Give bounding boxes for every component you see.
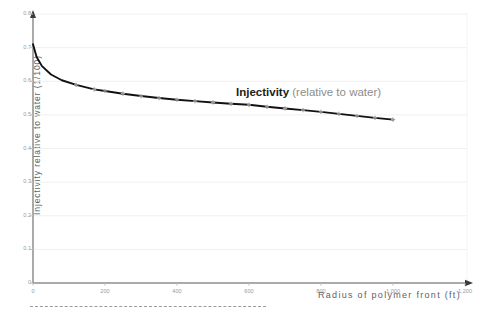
- annotation-light-text: (relative to water): [292, 86, 381, 98]
- y-tick-label: 0.8: [7, 10, 31, 16]
- series-marker: [229, 102, 233, 106]
- x-axis-arrowhead: [465, 280, 473, 286]
- x-axis-title: Radius of polymer front (ft): [318, 290, 461, 300]
- series-marker: [319, 110, 323, 114]
- y-tick-label: 0.3: [7, 178, 31, 184]
- y-tick-label: 0.6: [7, 77, 31, 83]
- series-marker: [391, 117, 395, 121]
- y-tick-label: 0.1: [7, 245, 31, 251]
- series-marker: [92, 87, 96, 91]
- x-tick-label: 600: [244, 288, 253, 294]
- series-marker: [103, 89, 107, 93]
- footer-dashed-rule: [30, 306, 266, 307]
- series-line-injectivity: [33, 44, 393, 119]
- x-tick-label: 400: [172, 288, 181, 294]
- y-axis-ticks: 00.10.20.30.40.50.60.70.8: [0, 0, 31, 319]
- series-marker: [121, 92, 125, 96]
- y-tick-label: 0: [7, 279, 31, 285]
- y-tick-label: 0.5: [7, 111, 31, 117]
- series-marker: [301, 108, 305, 112]
- series-marker: [247, 103, 251, 107]
- plot-area: [0, 0, 490, 319]
- chart-figure: Injectivity relative to water (1/100) 00…: [0, 0, 490, 319]
- y-tick-label: 0.2: [7, 212, 31, 218]
- x-tick-label: 200: [100, 288, 109, 294]
- series-marker: [139, 94, 143, 98]
- series-annotation: Injectivity (relative to water): [236, 86, 381, 98]
- x-tick-label: 0: [31, 288, 34, 294]
- series-marker: [157, 96, 161, 100]
- series-marker: [211, 100, 215, 104]
- series-marker: [193, 99, 197, 103]
- y-tick-label: 0.4: [7, 145, 31, 151]
- series-marker: [283, 106, 287, 110]
- annotation-bold-text: Injectivity: [236, 86, 289, 98]
- series-marker: [175, 98, 179, 102]
- y-tick-label: 0.7: [7, 44, 31, 50]
- series-marker: [265, 105, 269, 109]
- series-marker: [373, 116, 377, 120]
